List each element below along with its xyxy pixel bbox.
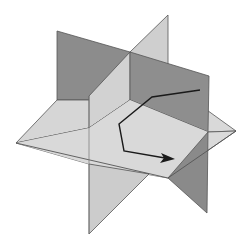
three-planes-diagram <box>0 0 252 249</box>
diagonal-plane-lower <box>89 164 149 234</box>
planes-group <box>16 15 236 234</box>
